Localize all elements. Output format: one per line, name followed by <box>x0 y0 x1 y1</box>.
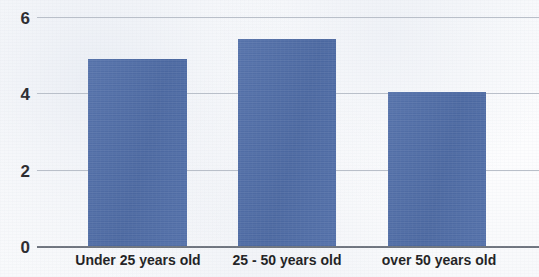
y-tick-label-2: 2 <box>0 163 30 180</box>
y-tick-label-6: 6 <box>0 10 30 27</box>
y-tick-label-0: 0 <box>0 239 30 256</box>
y-tick-label-4: 4 <box>0 86 30 103</box>
x-category-label-over-50: over 50 years old <box>360 253 518 267</box>
bar-chart-figure: 6 4 2 0 Under 25 years old 25 - 50 years… <box>0 0 539 277</box>
x-category-label-25-to-50: 25 - 50 years old <box>209 253 365 267</box>
bar-under-25 <box>88 59 187 247</box>
bar-over-50 <box>388 92 486 247</box>
gridline-6 <box>37 17 539 18</box>
bar-25-to-50 <box>238 39 336 247</box>
x-axis-baseline <box>37 246 539 248</box>
x-category-label-under-25: Under 25 years old <box>58 253 218 267</box>
